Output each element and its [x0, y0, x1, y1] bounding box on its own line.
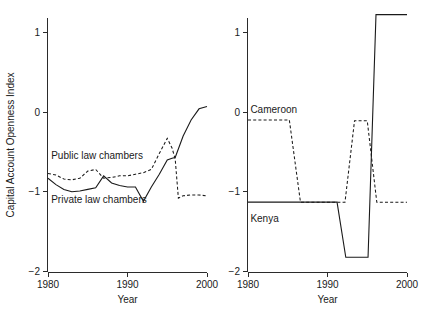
series-line-cameroon — [248, 120, 407, 202]
x-axis-title: Year — [117, 294, 138, 305]
y-tick-label: −2 — [29, 266, 41, 277]
x-tick-label: 1980 — [237, 279, 260, 290]
figure-container: 10−1−2198019902000YearCapital Account Op… — [0, 0, 443, 323]
y-axis-title: Capital Account Openness Index — [5, 72, 16, 217]
panel-right: 10−1−2198019902000YearCameroonKenya — [229, 15, 419, 305]
y-tick-label: 1 — [234, 27, 240, 38]
y-tick-label: 0 — [34, 107, 40, 118]
series-annotation-public-law-chambers: Public law chambers — [51, 150, 143, 161]
series-annotation-kenya: Kenya — [250, 213, 279, 224]
chart-svg: 10−1−2198019902000YearCapital Account Op… — [0, 0, 443, 323]
y-tick-label: −1 — [29, 186, 41, 197]
y-tick-label: −2 — [229, 266, 241, 277]
x-tick-label: 1990 — [316, 279, 339, 290]
series-annotation-private-law-chambers: Private law chambers — [51, 194, 147, 205]
x-axis-title: Year — [317, 294, 338, 305]
series-line-public-law-chambers — [48, 138, 207, 198]
x-tick-label: 2000 — [396, 279, 419, 290]
series-annotation-cameroon: Cameroon — [250, 104, 297, 115]
panel-left: 10−1−2198019902000YearCapital Account Op… — [5, 18, 219, 305]
y-tick-label: 0 — [234, 107, 240, 118]
x-tick-label: 1980 — [37, 279, 60, 290]
y-tick-label: 1 — [34, 27, 40, 38]
x-tick-label: 2000 — [196, 279, 219, 290]
y-tick-label: −1 — [229, 186, 241, 197]
x-tick-label: 1990 — [116, 279, 139, 290]
